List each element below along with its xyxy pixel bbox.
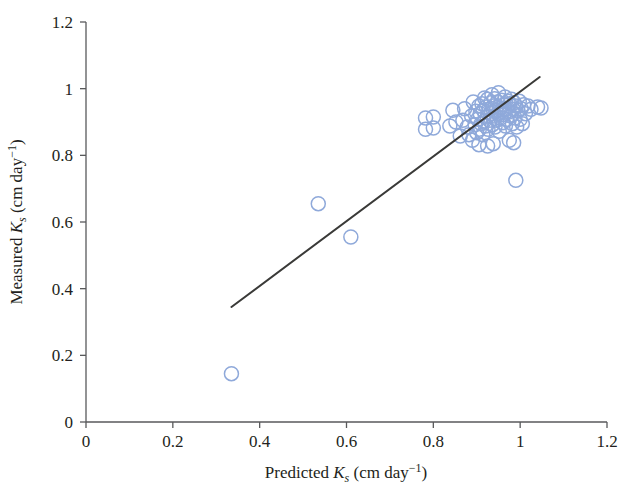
scatter-chart: 00.20.40.60.811.2 00.20.40.60.811.2 Pred…	[0, 0, 628, 490]
x-tick-label: 1	[516, 432, 525, 451]
x-tick-label: 0.2	[162, 432, 183, 451]
y-tick-label: 0	[65, 413, 74, 432]
y-tick-label: 0.6	[52, 213, 73, 232]
x-tick-label: 1.2	[596, 432, 617, 451]
data-point	[344, 230, 358, 244]
y-tick-labels: 00.20.40.60.811.2	[52, 13, 74, 432]
data-point	[507, 136, 521, 150]
x-tick-label: 0	[82, 432, 91, 451]
data-point	[426, 121, 440, 135]
x-tick-label: 0.4	[249, 432, 271, 451]
x-tick-label: 0.8	[423, 432, 444, 451]
x-axis-ticks	[86, 422, 607, 428]
y-tick-label: 1.2	[52, 13, 73, 32]
y-axis-ticks	[80, 22, 86, 422]
y-tick-label: 1	[65, 80, 74, 99]
x-tick-labels: 00.20.40.60.811.2	[82, 432, 618, 451]
data-point	[311, 197, 325, 211]
plot-canvas: 00.20.40.60.811.2 00.20.40.60.811.2 Pred…	[0, 0, 628, 490]
x-axis-title: Predicted Ks (cm day−1)	[265, 461, 427, 485]
y-tick-label: 0.4	[52, 280, 74, 299]
data-point	[486, 137, 500, 151]
data-point	[224, 367, 238, 381]
y-tick-label: 0.2	[52, 346, 73, 365]
y-axis-title: Measured Ks (cm day−1)	[5, 139, 29, 304]
data-point	[426, 110, 440, 124]
regression-line	[231, 77, 539, 307]
data-point	[509, 173, 523, 187]
y-tick-label: 0.8	[52, 146, 73, 165]
x-tick-label: 0.6	[336, 432, 357, 451]
data-points	[224, 86, 548, 381]
